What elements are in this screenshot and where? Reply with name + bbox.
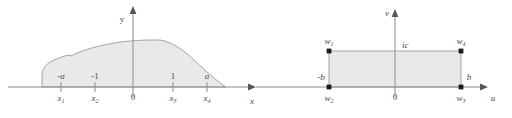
origin-label-right: 0: [393, 92, 398, 102]
label-x3: x3: [169, 93, 177, 104]
panel-z-plane: y x 0 -a -1 1 a x1 x2 x3 x4: [0, 0, 256, 118]
vertex-dot-w3: [459, 85, 464, 90]
label-x4: x4: [203, 93, 211, 104]
label-neg-a: -a: [57, 71, 65, 81]
vertex-dot-w4: [459, 49, 464, 54]
x-axis-arrowhead: [248, 84, 256, 91]
label-one: 1: [171, 71, 176, 81]
z-plane-svg: y x 0 -a -1 1 a x1 x2 x3 x4: [0, 0, 256, 118]
u-axis-arrowhead: [480, 84, 488, 91]
label-w4: w4: [456, 36, 465, 47]
v-axis-arrowhead: [392, 9, 399, 17]
label-w2: w2: [324, 93, 333, 104]
label-neg-one: -1: [91, 71, 99, 81]
panel-w-plane: v u 0 ic -b b w1 w4 w2 w3: [256, 0, 512, 118]
y-axis-arrowhead: [130, 6, 137, 14]
figure-root: y x 0 -a -1 1 a x1 x2 x3 x4: [0, 0, 512, 118]
y-axis-label: y: [120, 14, 125, 24]
label-w1: w1: [324, 36, 333, 47]
u-axis-label: u: [491, 93, 496, 103]
vertex-dot-w2: [327, 85, 332, 90]
label-neg-b: -b: [317, 72, 325, 82]
origin-label-left: 0: [131, 92, 136, 102]
w-plane-svg: v u 0 ic -b b w1 w4 w2 w3: [256, 0, 512, 118]
label-ic: ic: [402, 40, 409, 50]
label-x1: x1: [57, 93, 65, 104]
label-a: a: [205, 71, 210, 81]
x-axis-label: x: [249, 96, 254, 106]
vertex-dot-w1: [327, 49, 332, 54]
shaded-region-curve: [42, 40, 226, 87]
v-axis-label: v: [385, 8, 389, 18]
label-w3: w3: [456, 93, 465, 104]
label-b: b: [467, 72, 472, 82]
label-x2: x2: [91, 93, 99, 104]
